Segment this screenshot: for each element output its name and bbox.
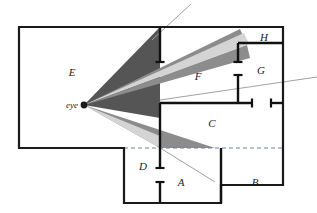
figure-container: eye ABCDEFGH (0, 0, 317, 213)
eye-dot (81, 102, 88, 109)
region-c-label: C (208, 117, 216, 129)
region-h-label: H (259, 31, 269, 43)
region-d-label: D (138, 160, 147, 172)
region-g-label: G (257, 64, 265, 76)
region-a-label: A (177, 176, 185, 188)
floor-plan-diagram: eye ABCDEFGH (0, 0, 317, 213)
region-b-label: B (252, 176, 259, 188)
region-f-label: F (194, 70, 202, 82)
eye-label: eye (66, 100, 78, 110)
region-e-label: E (68, 66, 76, 78)
